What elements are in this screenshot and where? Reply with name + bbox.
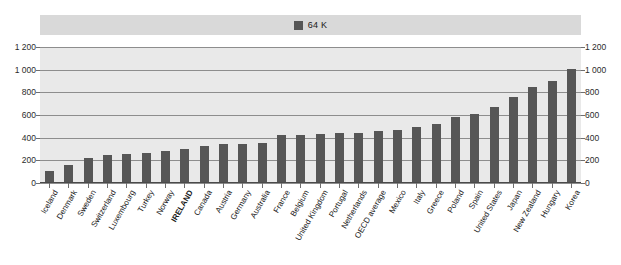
x-label-slot: Australia (253, 189, 272, 265)
bar-slot (59, 47, 78, 183)
x-tick-slot (465, 183, 484, 188)
bar-slot (233, 47, 252, 183)
x-tick-slot (291, 183, 310, 188)
bar-slot (504, 47, 523, 183)
x-axis-tickmark (320, 183, 321, 188)
bar (412, 127, 421, 183)
plot-area (40, 47, 581, 183)
y-axis-tickmark (581, 115, 585, 116)
x-axis-tickmark (532, 183, 533, 188)
y-axis-tickmark (581, 138, 585, 139)
bar-slot (330, 47, 349, 183)
bar (374, 131, 383, 183)
x-axis-tickmark (552, 183, 553, 188)
x-axis-label: Korea (564, 189, 582, 211)
x-tick-slot (330, 183, 349, 188)
x-label-slot: Iceland (40, 189, 59, 265)
x-tick-slot (311, 183, 330, 188)
x-label-slot: Austria (214, 189, 233, 265)
y-axis-tickmark (36, 47, 40, 48)
bar (84, 158, 93, 183)
x-axis-tickmark (358, 183, 359, 188)
y-axis-tickmark (36, 115, 40, 116)
x-tick-slot (485, 183, 504, 188)
x-label-slot: Poland (446, 189, 465, 265)
x-label-slot: Hungary (543, 189, 562, 265)
bar (142, 153, 151, 183)
x-label-slot: Canada (195, 189, 214, 265)
x-tick-slot (543, 183, 562, 188)
x-axis-label: Denmark (56, 189, 79, 221)
x-label-slot: OECD average (369, 189, 388, 265)
bar-slot (291, 47, 310, 183)
x-axis-tickmark (242, 183, 243, 188)
x-tick-slot (233, 183, 252, 188)
x-axis-tickmark (146, 183, 147, 188)
x-label-slot: United States (485, 189, 504, 265)
y-axis-tick-label: 200 (22, 156, 36, 165)
x-tick-slot (98, 183, 117, 188)
y-axis-tick-label: 1 000 (585, 66, 606, 75)
x-axis-tickmark (223, 183, 224, 188)
y-axis-tick-label: 1 000 (15, 66, 36, 75)
bar-series (40, 47, 581, 183)
x-axis-label: Mexico (388, 189, 408, 215)
bar (64, 165, 73, 183)
x-axis-label: France (272, 189, 291, 215)
x-axis-tickmark (474, 183, 475, 188)
y-axis-tickmark (581, 47, 585, 48)
bar (393, 130, 402, 183)
y-axis-tick-label: 400 (22, 134, 36, 143)
x-tick-slot (407, 183, 426, 188)
x-axis-label: Canada (193, 189, 214, 217)
bar (548, 81, 557, 183)
x-label-slot: France (272, 189, 291, 265)
chart-legend: 64 K (40, 15, 581, 35)
x-axis-tickmark (494, 183, 495, 188)
bar (470, 114, 479, 183)
bar-slot (79, 47, 98, 183)
bar-slot (40, 47, 59, 183)
x-axis-label: Germany (229, 189, 252, 221)
bar (316, 134, 325, 183)
bar (219, 144, 228, 183)
bar (528, 87, 537, 183)
x-tick-slot (388, 183, 407, 188)
x-axis-label: Australia (250, 189, 272, 220)
bar (509, 97, 518, 183)
x-axis-ticks (40, 183, 581, 188)
x-axis-tickmark (339, 183, 340, 188)
bar-slot (562, 47, 581, 183)
bar-slot (311, 47, 330, 183)
x-tick-slot (195, 183, 214, 188)
y-axis-tick-label: 600 (22, 111, 36, 120)
y-axis-tick-label: 0 (585, 179, 590, 188)
x-tick-slot (369, 183, 388, 188)
x-label-slot: Korea (562, 189, 581, 265)
x-tick-slot (427, 183, 446, 188)
x-axis-tickmark (68, 183, 69, 188)
x-axis-tickmark (262, 183, 263, 188)
bar (335, 133, 344, 183)
x-axis-label: Hungary (540, 189, 562, 219)
x-axis-tickmark (416, 183, 417, 188)
bar-slot (485, 47, 504, 183)
y-axis-tick-label: 800 (22, 88, 36, 97)
bar-slot (543, 47, 562, 183)
x-axis-tickmark (397, 183, 398, 188)
y-axis-tickmark (581, 160, 585, 161)
bar-slot (465, 47, 484, 183)
bar-slot (388, 47, 407, 183)
x-tick-slot (446, 183, 465, 188)
y-axis-tickmark (36, 70, 40, 71)
x-tick-slot (117, 183, 136, 188)
x-axis-tickmark (455, 183, 456, 188)
y-axis-tick-label: 200 (585, 156, 599, 165)
legend-label: 64 K (308, 20, 327, 30)
x-tick-slot (59, 183, 78, 188)
x-tick-slot (175, 183, 194, 188)
x-axis-label: Japan (506, 189, 524, 212)
y-axis-tick-label: 1 200 (15, 43, 36, 52)
bar (567, 69, 576, 183)
bar-slot (407, 47, 426, 183)
